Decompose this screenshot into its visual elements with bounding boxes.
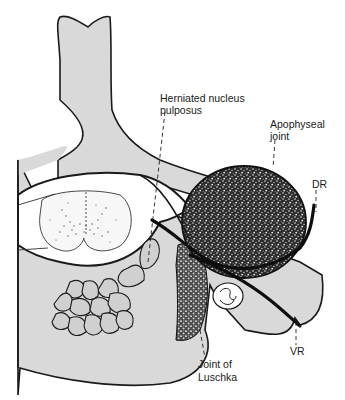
apophyseal-joint — [182, 166, 306, 278]
label-luschka-line1: Joint of — [198, 358, 232, 370]
label-herniated-line2: pulposus — [160, 104, 202, 116]
label-apophyseal-line2: joint — [269, 130, 289, 142]
label-luschka-line2: Luschka — [198, 371, 237, 383]
leader-apophyseal — [273, 140, 275, 168]
spinous-process — [58, 16, 235, 200]
label-herniated-line1: Herniated nucleus — [160, 92, 245, 104]
label-apophyseal-line1: Apophyseal — [270, 118, 325, 130]
label-dr: DR — [312, 178, 328, 190]
vertebral-artery — [213, 283, 243, 309]
spinal-cord — [40, 191, 132, 251]
vertebra-diagram: Herniated nucleus pulposus Apophyseal jo… — [0, 0, 345, 400]
label-vr: VR — [290, 345, 305, 357]
